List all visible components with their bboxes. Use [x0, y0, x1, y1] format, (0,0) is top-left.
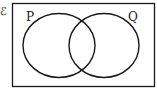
venn-diagram: ℰ P Q	[0, 0, 157, 89]
set-q-label: Q	[128, 10, 138, 24]
set-p-label: P	[26, 10, 34, 24]
universal-set-symbol: ℰ	[0, 5, 7, 18]
